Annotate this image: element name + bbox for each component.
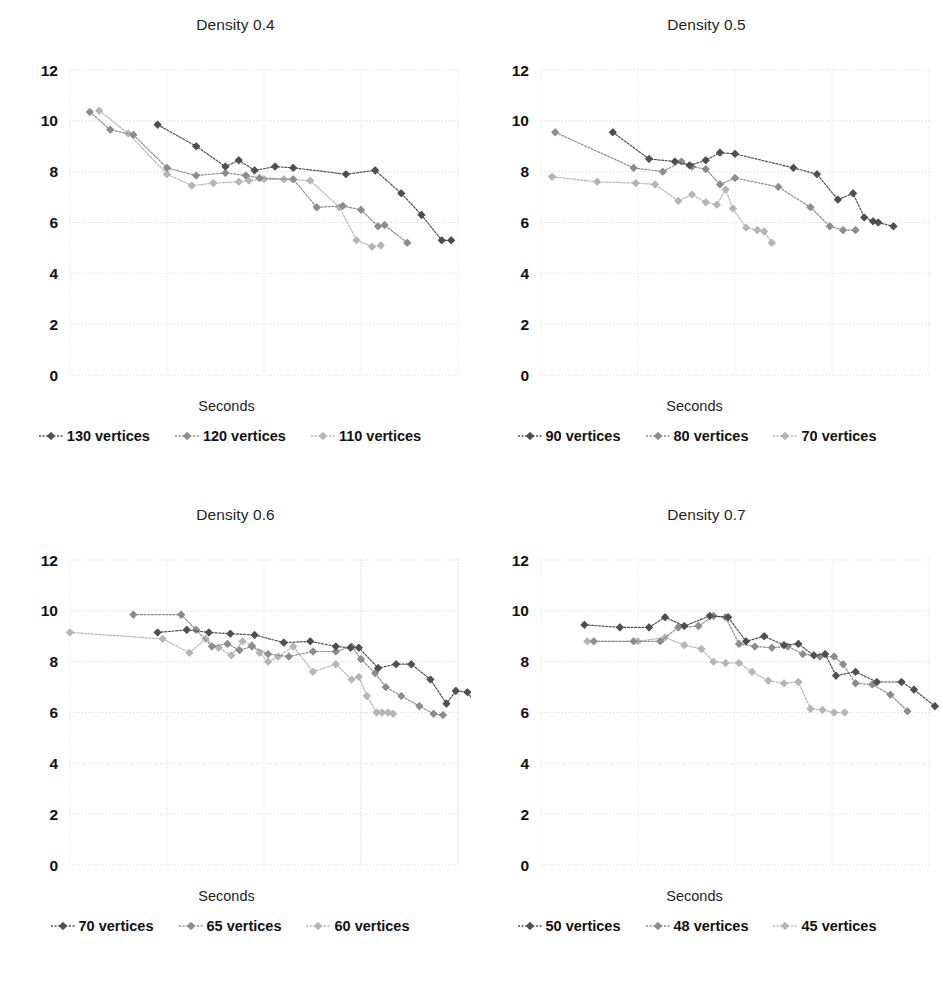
legend-label: 50 vertices bbox=[546, 918, 621, 934]
chart-panel-density-0-7: Density 0.7 0246810120.11101001000 Secon… bbox=[471, 490, 942, 980]
y-tick-label: 2 bbox=[520, 806, 529, 823]
line-chart-svg: 0246810120.11101001000 bbox=[471, 532, 942, 877]
y-tick-label: 0 bbox=[49, 857, 58, 874]
plot-area-wrapper: 0246810120.11101001000 bbox=[471, 42, 942, 387]
line-chart-svg: 0246810120.11101001000 bbox=[0, 42, 471, 387]
y-tick-label: 6 bbox=[520, 704, 529, 721]
legend-label: 120 vertices bbox=[203, 428, 286, 444]
legend-marker-icon bbox=[645, 429, 671, 443]
chart-panel-density-0-6: Density 0.6 0246810120.11101001000 Secon… bbox=[0, 490, 471, 980]
y-tick-label: 12 bbox=[512, 62, 529, 79]
chart-panel-density-0-5: Density 0.5 0246810120.11101001000 Secon… bbox=[471, 0, 942, 490]
legend-label: 45 vertices bbox=[801, 918, 876, 934]
y-tick-label: 4 bbox=[49, 265, 58, 282]
y-tick-label: 4 bbox=[49, 755, 58, 772]
legend-item[interactable]: 45 vertices bbox=[772, 918, 876, 934]
y-tick-label: 10 bbox=[41, 112, 58, 129]
data-series bbox=[584, 634, 848, 716]
data-series bbox=[549, 173, 776, 246]
legend-label: 65 vertices bbox=[207, 918, 282, 934]
chart-legend: 130 vertices120 vertices110 vertices bbox=[0, 428, 465, 444]
data-series bbox=[609, 129, 896, 230]
data-series bbox=[154, 121, 454, 243]
y-tick-label: 12 bbox=[41, 62, 58, 79]
y-tick-label: 10 bbox=[512, 602, 529, 619]
legend-item[interactable]: 60 vertices bbox=[305, 918, 409, 934]
y-tick-label: 6 bbox=[49, 704, 58, 721]
y-tick-label: 6 bbox=[520, 214, 529, 231]
y-tick-label: 8 bbox=[49, 163, 58, 180]
x-axis-label: Seconds bbox=[0, 398, 462, 414]
y-tick-label: 4 bbox=[520, 265, 529, 282]
legend-label: 48 vertices bbox=[674, 918, 749, 934]
chart-panel-density-0-4: Density 0.4 0246810120.11101001000 Secon… bbox=[0, 0, 471, 490]
legend-item[interactable]: 120 vertices bbox=[174, 428, 286, 444]
plot-area-wrapper: 0246810120.11101001000 bbox=[471, 532, 942, 877]
legend-marker-icon bbox=[772, 429, 798, 443]
legend-label: 80 vertices bbox=[674, 428, 749, 444]
legend-label: 110 vertices bbox=[339, 428, 421, 444]
chart-grid: Density 0.4 0246810120.11101001000 Secon… bbox=[0, 0, 942, 1002]
y-tick-label: 0 bbox=[520, 367, 529, 384]
y-tick-label: 4 bbox=[520, 755, 529, 772]
chart-legend: 50 vertices48 vertices45 vertices bbox=[461, 918, 932, 934]
legend-marker-icon bbox=[50, 919, 76, 933]
legend-item[interactable]: 50 vertices bbox=[517, 918, 621, 934]
legend-marker-icon bbox=[517, 429, 543, 443]
legend-label: 130 vertices bbox=[67, 428, 150, 444]
y-tick-label: 0 bbox=[520, 857, 529, 874]
legend-item[interactable]: 90 vertices bbox=[517, 428, 621, 444]
plot-area-wrapper: 0246810120.11101001000 bbox=[0, 532, 471, 877]
legend-marker-icon bbox=[517, 919, 543, 933]
legend-label: 70 vertices bbox=[79, 918, 154, 934]
legend-item[interactable]: 48 vertices bbox=[645, 918, 749, 934]
legend-marker-icon bbox=[645, 919, 671, 933]
legend-marker-icon bbox=[174, 429, 200, 443]
y-tick-label: 8 bbox=[520, 163, 529, 180]
legend-item[interactable]: 110 vertices bbox=[310, 428, 421, 444]
x-axis-label: Seconds bbox=[0, 888, 462, 904]
y-tick-label: 8 bbox=[49, 653, 58, 670]
y-tick-label: 6 bbox=[49, 214, 58, 231]
legend-label: 60 vertices bbox=[334, 918, 409, 934]
line-chart-svg: 0246810120.11101001000 bbox=[471, 42, 942, 387]
chart-title: Density 0.7 bbox=[471, 506, 942, 524]
figure-canvas: Density 0.4 0246810120.11101001000 Secon… bbox=[0, 0, 942, 1002]
y-tick-label: 12 bbox=[41, 552, 58, 569]
legend-item[interactable]: 80 vertices bbox=[645, 428, 749, 444]
legend-item[interactable]: 70 vertices bbox=[50, 918, 154, 934]
legend-item[interactable]: 130 vertices bbox=[38, 428, 150, 444]
y-tick-label: 0 bbox=[49, 367, 58, 384]
chart-title: Density 0.5 bbox=[471, 16, 942, 34]
y-tick-label: 2 bbox=[49, 806, 58, 823]
legend-label: 70 vertices bbox=[801, 428, 876, 444]
chart-legend: 90 vertices80 vertices70 vertices bbox=[461, 428, 932, 444]
y-tick-label: 12 bbox=[512, 552, 529, 569]
legend-label: 90 vertices bbox=[546, 428, 621, 444]
chart-legend: 70 vertices65 vertices60 vertices bbox=[0, 918, 465, 934]
data-series bbox=[96, 107, 384, 250]
chart-title: Density 0.4 bbox=[0, 16, 471, 34]
y-tick-label: 8 bbox=[520, 653, 529, 670]
legend-marker-icon bbox=[772, 919, 798, 933]
x-axis-label: Seconds bbox=[459, 888, 930, 904]
data-series bbox=[67, 629, 397, 717]
y-tick-label: 10 bbox=[41, 602, 58, 619]
y-tick-label: 2 bbox=[49, 316, 58, 333]
data-series bbox=[581, 613, 938, 710]
legend-marker-icon bbox=[178, 919, 204, 933]
x-axis-label: Seconds bbox=[459, 398, 930, 414]
y-tick-label: 10 bbox=[512, 112, 529, 129]
legend-marker-icon bbox=[310, 429, 336, 443]
chart-title: Density 0.6 bbox=[0, 506, 471, 524]
legend-item[interactable]: 70 vertices bbox=[772, 428, 876, 444]
plot-area-wrapper: 0246810120.11101001000 bbox=[0, 42, 471, 387]
y-tick-label: 2 bbox=[520, 316, 529, 333]
legend-marker-icon bbox=[38, 429, 64, 443]
line-chart-svg: 0246810120.11101001000 bbox=[0, 532, 471, 877]
legend-item[interactable]: 65 vertices bbox=[178, 918, 282, 934]
legend-marker-icon bbox=[305, 919, 331, 933]
